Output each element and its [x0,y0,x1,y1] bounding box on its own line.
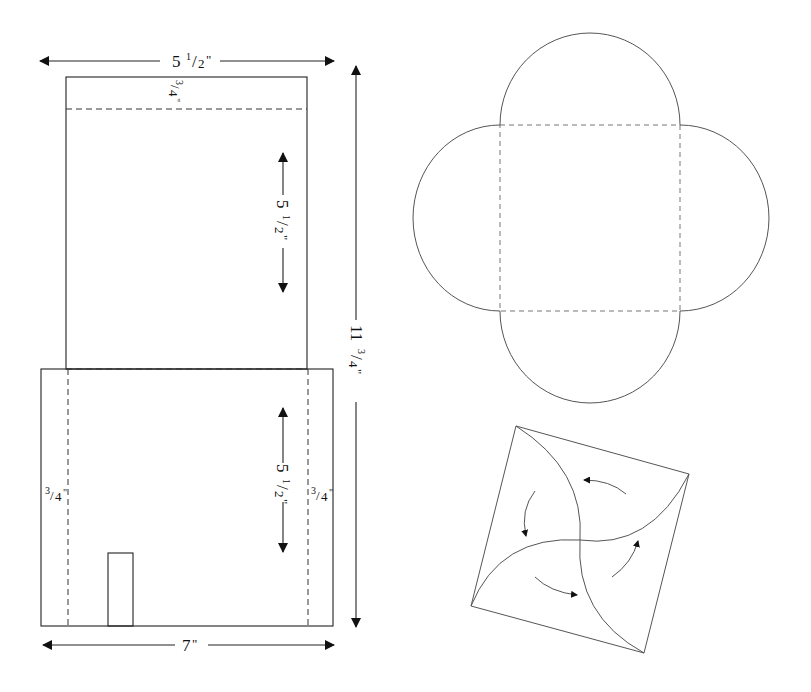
right-flap-den: 4 [321,489,328,504]
lower-height-whole: 5 [273,464,292,473]
total-height-whole: 11 [347,325,366,341]
total-height-den: 4 [346,361,361,368]
fraction-slash: / [168,85,183,89]
fraction-slash: / [273,221,292,226]
lower-height-unit: " [276,499,291,504]
flower-envelope-template [413,33,769,403]
pinwheel-fold-diagram [471,426,689,653]
left-flap-unit: " [63,487,67,498]
top-flap-unit: " [171,98,182,102]
fraction-slash: / [273,485,292,490]
upper-height-whole: 5 [273,200,292,209]
fold-arrow-top [584,480,626,494]
upper-height-unit: " [276,235,291,240]
diagram-canvas: 5 1 / 2 " 3 / 4 " 5 1 / 2 " [0,0,811,692]
top-width-dimension: 5 1 / 2 " [40,51,334,71]
lower-panel-height-dimension: 5 1 / 2 " [272,408,292,552]
top-flap-den: 4 [166,90,181,97]
box-template: 5 1 / 2 " 3 / 4 " 5 1 / 2 " [40,51,367,655]
top-width-unit: " [206,52,211,67]
total-height-num: 3 [356,349,367,354]
fold-arc-left [471,540,580,606]
left-flap [413,125,500,311]
left-flap-den: 4 [55,489,62,504]
fraction-slash: / [50,488,54,503]
total-height-dimension: 11 3 / 4 " [346,66,367,627]
bottom-width-unit: " [192,636,197,651]
right-flap-unit: " [329,487,333,498]
fold-arc-right [580,474,689,541]
top-flap [500,33,680,125]
left-flap-label: 3 / 4 " [45,485,67,504]
upper-height-num: 1 [281,215,292,220]
envelope-center-fold-square [500,125,680,311]
top-flap-label: 3 / 4 " [166,80,185,102]
right-flap [680,125,769,311]
fold-arc-top [516,426,580,540]
fraction-slash: / [347,355,366,360]
lower-panel-outline [41,369,333,626]
upper-panel-outline [66,77,307,369]
tab-cutout [108,553,133,626]
bottom-flap [500,311,680,403]
upper-panel-height-dimension: 5 1 / 2 " [272,153,292,292]
lower-height-num: 1 [281,479,292,484]
fold-arrow-right [612,541,638,577]
fraction-slash: / [192,52,197,71]
bottom-width-whole: 7 [182,636,191,655]
top-width-num: 1 [186,51,191,62]
bottom-width-dimension: 7 " [43,636,334,655]
fold-arrow-bottom [535,577,577,595]
total-height-unit: " [350,369,365,374]
lower-height-den: 2 [272,491,287,498]
fold-arrow-left [524,491,535,536]
upper-height-den: 2 [272,227,287,234]
fraction-slash: / [316,488,320,503]
right-flap-label: 3 / 4 " [311,485,333,504]
fold-arc-bottom [580,540,644,653]
top-width-whole: 5 [172,52,181,71]
top-width-den: 2 [198,56,205,71]
